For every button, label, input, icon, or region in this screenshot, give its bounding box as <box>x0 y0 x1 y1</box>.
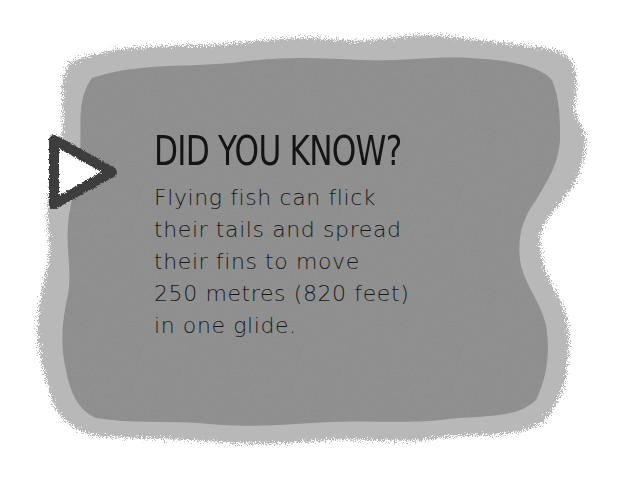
play-triangle-icon <box>44 132 120 212</box>
did-you-know-card: DID YOU KNOW? Flying fish can flick thei… <box>0 0 620 493</box>
fact-body-text: Flying fish can flick their tails and sp… <box>154 182 514 342</box>
did-you-know-heading: DID YOU KNOW? <box>154 128 435 174</box>
fact-content: DID YOU KNOW? Flying fish can flick thei… <box>154 128 514 342</box>
